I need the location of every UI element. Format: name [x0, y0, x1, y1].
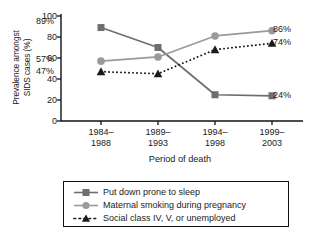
legend-label-socialclass: Social class IV, V, or unemployed	[99, 214, 235, 223]
x-tick-label-2-line1: 1994–	[188, 127, 242, 138]
y-axis-title: Prevalence amongst SIDS cases (%)	[11, 8, 32, 128]
legend-item-prone: Put down prone to sleep	[73, 186, 288, 199]
x-tick-label-2-line2: 1998	[188, 138, 242, 149]
data-point-0-1	[155, 44, 162, 51]
y-tick-label-80: 80	[33, 33, 57, 42]
series-line-0	[101, 28, 272, 96]
value-label-prone-1984: 89%	[36, 17, 54, 26]
x-tick-label-1-line1: 1989–	[131, 127, 185, 138]
data-point-2-0	[97, 67, 106, 75]
x-axis-title: Period of death	[60, 154, 300, 164]
data-point-0-0	[98, 24, 105, 31]
chart-legend: Put down prone to sleep Maternal smoking…	[63, 181, 289, 227]
data-point-0-2	[212, 91, 219, 98]
legend-marker-circle-icon	[73, 199, 99, 212]
sids-prevalence-line-chart: Prevalence amongst SIDS cases (%) 100 80…	[0, 0, 309, 233]
legend-label-smoking: Maternal smoking during pregnancy	[99, 201, 246, 210]
legend-item-smoking: Maternal smoking during pregnancy	[73, 199, 288, 212]
series-line-1	[101, 31, 272, 61]
x-tick-label-2: 1994– 1998	[188, 127, 242, 148]
x-tick-label-3-line1: 1999–	[245, 127, 299, 138]
x-tick-label-1-line2: 1993	[131, 138, 185, 149]
legend-marker-square-icon	[73, 186, 99, 199]
y-tick-label-40: 40	[33, 75, 57, 84]
x-tick-label-1: 1989– 1993	[131, 127, 185, 148]
data-point-2-2	[211, 45, 220, 53]
x-tick-label-3-line2: 2003	[245, 138, 299, 149]
x-tick-label-0-line1: 1984–	[74, 127, 128, 138]
legend-item-socialclass: Social class IV, V, or unemployed	[73, 212, 288, 225]
data-point-1-2	[211, 32, 219, 40]
y-tick-label-0: 0	[33, 117, 57, 126]
y-tick-label-20: 20	[33, 96, 57, 105]
value-label-socialclass-1984: 47%	[36, 67, 54, 76]
y-axis-title-line2: SIDS cases (%)	[21, 8, 32, 128]
value-label-prone-1999: 24%	[273, 91, 291, 100]
value-label-socialclass-1999: 74%	[273, 38, 291, 47]
data-point-2-1	[154, 69, 163, 77]
series-line-2	[101, 43, 272, 73]
value-label-smoking-1999: 86%	[273, 25, 291, 34]
value-label-smoking-1984: 57%	[36, 55, 54, 64]
legend-marker-triangle-icon	[73, 212, 99, 225]
data-point-1-0	[97, 57, 105, 65]
legend-label-prone: Put down prone to sleep	[99, 188, 200, 197]
y-axis-title-line1: Prevalence amongst	[11, 8, 22, 128]
x-tick-label-0: 1984– 1988	[74, 127, 128, 148]
x-tick-label-3: 1999– 2003	[245, 127, 299, 148]
data-point-1-1	[154, 53, 162, 61]
x-tick-label-0-line2: 1988	[74, 138, 128, 149]
